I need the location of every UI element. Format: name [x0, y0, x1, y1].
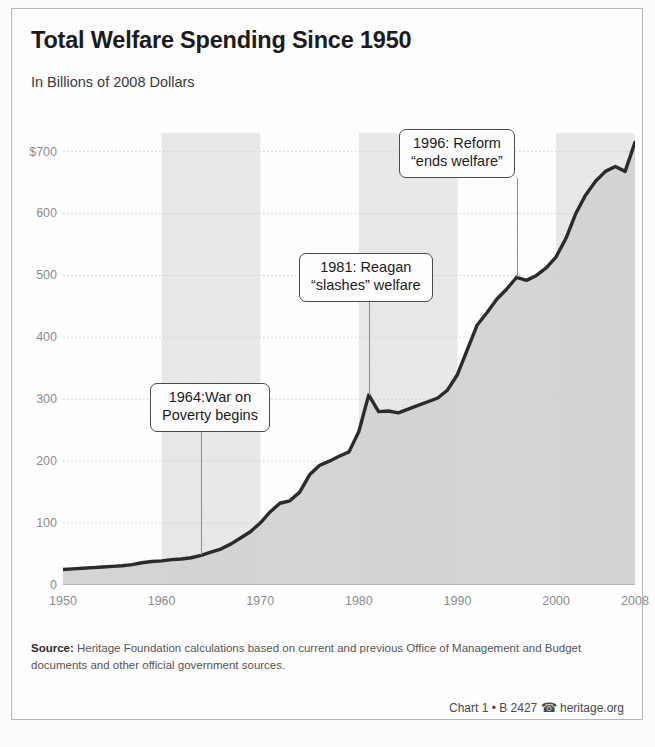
- y-axis-tick-label: 500: [36, 268, 57, 282]
- x-axis-tick-label: 1980: [345, 594, 373, 608]
- annotation-callout: 1981: Reagan“slashes” welfare: [299, 253, 433, 302]
- annotation-line-1: 1964:War on: [169, 389, 251, 405]
- website-label: heritage.org: [560, 701, 624, 715]
- y-axis-tick-label: $700: [29, 145, 57, 159]
- telephone-icon: ☎: [541, 700, 557, 715]
- y-axis-tick-label: 600: [36, 206, 57, 220]
- x-axis-tick-label: 2008: [621, 594, 649, 608]
- y-axis-labels: 0100200300400500600$700: [12, 133, 57, 585]
- chart-credit: Chart 1 • B 2427 ☎ heritage.org: [449, 700, 624, 715]
- y-axis-tick-label: 400: [36, 330, 57, 344]
- y-axis-tick-label: 0: [50, 578, 57, 592]
- annotation-line-2: “slashes” welfare: [311, 277, 421, 295]
- chart-number: Chart 1 • B 2427: [449, 701, 537, 715]
- x-axis-tick-label: 1950: [49, 594, 77, 608]
- annotation-leader-line: [201, 432, 202, 555]
- x-axis-tick-label: 2000: [542, 594, 570, 608]
- decade-band: [162, 133, 261, 585]
- chart-page: Total Welfare Spending Since 1950 In Bil…: [0, 0, 655, 747]
- y-axis-tick-label: 300: [36, 392, 57, 406]
- y-axis-tick-label: 100: [36, 516, 57, 530]
- source-note: Source: Heritage Foundation calculations…: [31, 640, 611, 673]
- annotation-callout: 1964:War onPoverty begins: [150, 383, 270, 432]
- area-fill: [63, 142, 635, 585]
- page-title: Total Welfare Spending Since 1950: [31, 27, 411, 54]
- x-axis-labels: 1950196019701980199020002008: [63, 594, 635, 616]
- annotation-leader-line: [369, 302, 370, 395]
- chart-subtitle: In Billions of 2008 Dollars: [31, 74, 195, 90]
- annotation-line-2: “ends welfare”: [411, 153, 503, 171]
- annotation-line-1: 1996: Reform: [413, 135, 501, 151]
- x-axis-tick-label: 1990: [444, 594, 472, 608]
- chart-plot-area: [63, 133, 635, 585]
- annotation-line-1: 1981: Reagan: [320, 259, 411, 275]
- annotation-line-2: Poverty begins: [162, 407, 258, 425]
- x-axis-tick-label: 1960: [148, 594, 176, 608]
- source-label: Source:: [31, 642, 74, 654]
- source-text: Heritage Foundation calculations based o…: [31, 642, 581, 671]
- annotation-leader-line: [517, 178, 518, 277]
- area-chart: [63, 133, 635, 585]
- x-axis-tick-label: 1970: [246, 594, 274, 608]
- y-axis-tick-label: 200: [36, 454, 57, 468]
- annotation-callout: 1996: Reform“ends welfare”: [399, 129, 515, 178]
